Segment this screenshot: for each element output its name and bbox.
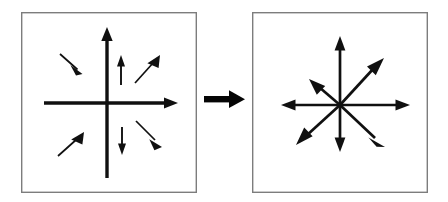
left-panel <box>22 13 197 193</box>
right-panel <box>253 13 428 193</box>
diagram-figure <box>0 0 448 202</box>
transition-arrow <box>204 90 245 108</box>
transition-arrow-head-icon <box>229 90 245 108</box>
transition-arrow-shaft <box>204 96 230 102</box>
diagram-canvas <box>0 0 448 202</box>
